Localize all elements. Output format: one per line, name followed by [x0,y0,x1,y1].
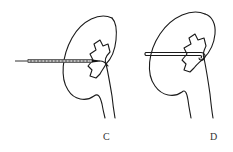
panel-c: C [15,16,116,142]
ureter-d [204,14,215,118]
panel-label-d: D [210,131,217,142]
renal-sinus-c [88,40,110,78]
figure: C D [0,0,233,152]
panel-d: D [145,12,217,142]
needle [15,60,108,67]
catheter [145,53,205,61]
ureter-c [106,18,116,118]
panel-label-c: C [103,131,110,142]
